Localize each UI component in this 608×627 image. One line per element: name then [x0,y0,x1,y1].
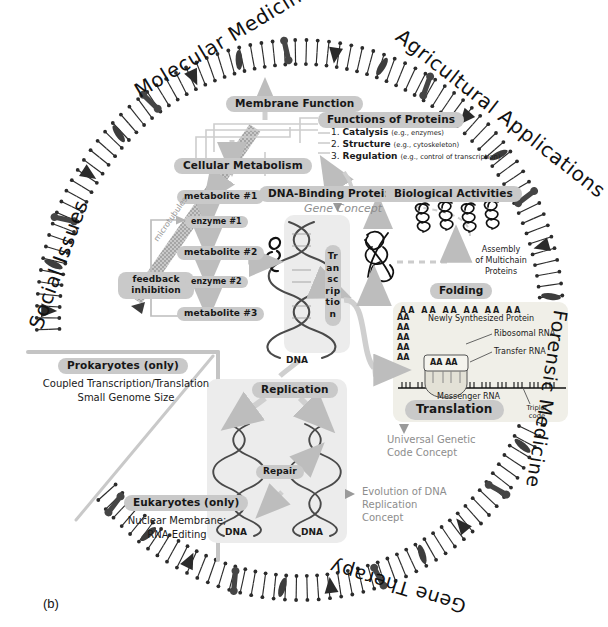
evolution-dna-replication-label: Evolution of DNA Replication Concept [362,486,462,524]
protein-function-2-name: Structure [342,139,390,149]
transfer-rna-label: Transfer RNA [494,347,546,356]
protein-function-1-example: (e.g., enzymes) [391,129,444,137]
protein-function-1: 1. Catalysis (e.g., enzymes) [331,127,444,139]
dna-label-transcription: DNA [286,355,308,367]
universal-code-pointer [399,424,409,434]
protein-function-1-num: 1. [331,127,340,137]
eukaryotes-note-line-1: Nuclear Membrane; [102,515,252,528]
pill-feedback-inhibition[interactable]: feedback inhibition [118,272,194,299]
pill-eukaryotes[interactable]: Eukaryotes (only) [124,495,248,511]
eukaryotes-note-line-2: RNA Editing [102,529,252,542]
ribosome-site-label: AA AA [430,358,458,367]
pill-enzyme-2[interactable]: enzyme #2 [185,276,248,288]
protein-function-leaders [318,133,330,153]
messenger-rna-label: Messenger RNA [437,392,500,401]
prokaryotes-note-line-1: Coupled Transcription/Translation [36,378,216,391]
pill-metabolite-3[interactable]: metabolite #3 [177,307,264,321]
protein-function-1-name: Catalysis [342,127,388,137]
aa-left-col-2: AA [397,323,409,332]
protein-function-3-name: Regulation [342,151,397,161]
pill-cellular-metabolism[interactable]: Cellular Metabolism [174,158,312,174]
pill-folding[interactable]: Folding [430,283,492,299]
gene-concept-label: Gene Concept [304,202,382,216]
aa-left-col-5: AA [397,353,409,362]
universal-genetic-code-label: Universal Genetic Code Concept [387,434,507,460]
pill-membrane-function[interactable]: Membrane Function [226,96,363,112]
assembly-multichain-label: Assembly of Multichain Proteins [466,245,536,277]
transcription-vertical-text: Transcription [325,251,341,320]
pill-replication[interactable]: Replication [252,382,338,398]
protein-function-3-example: (e.g., control of transcription) [400,153,500,161]
aa-left-col-4: AA [397,343,409,352]
protein-function-2-example: (e.g., cytoskeleton) [394,141,460,149]
protein-function-3-num: 3. [331,151,340,161]
prokaryotes-note-line-2: Small Genome Size [36,392,216,405]
dna-label-replication-right: DNA [301,527,323,539]
ribosomal-rna-label: Ribosomal RNA [494,329,555,338]
folded-protein-globule [365,232,393,282]
multichain-protein-squiggles [415,200,498,232]
pill-metabolite-2[interactable]: metabolite #2 [177,246,264,260]
pill-translation[interactable]: Translation [405,400,504,420]
protein-function-2-num: 2. [331,139,340,149]
newly-synthesized-protein-label: Newly Synthesized Protein [428,314,534,323]
pill-functions-of-proteins[interactable]: Functions of Proteins [318,112,464,128]
pill-repair[interactable]: Repair [256,465,304,479]
evolution-concept-pointer [345,489,355,499]
pill-metabolite-1[interactable]: metabolite #1 [177,190,264,204]
pill-prokaryotes[interactable]: Prokaryotes (only) [58,358,188,374]
protein-function-2: 2. Structure (e.g., cytoskeleton) [331,139,459,151]
pill-biological-activities[interactable]: Biological Activities [385,186,522,202]
figure-caption: (b) [43,596,59,611]
aa-left-col-3: AA [397,333,409,342]
aa-left-col-1: AA [397,313,409,322]
protein-function-3: 3. Regulation (e.g., control of transcri… [331,151,500,163]
triplet-code-label: Triplet code [520,404,554,421]
pill-transcription[interactable]: Transcription [325,245,341,326]
pill-enzyme-1[interactable]: enzyme #1 [185,216,248,228]
